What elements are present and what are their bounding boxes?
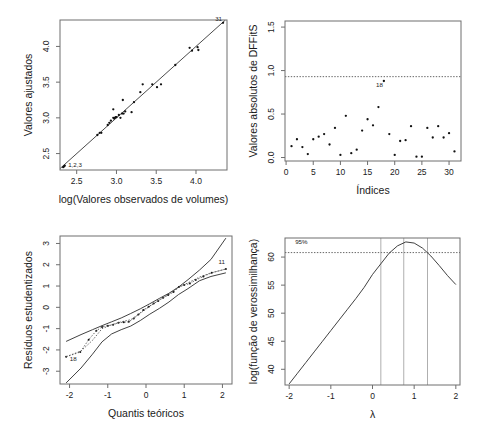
data-point-23 xyxy=(139,91,141,93)
x-tick-label-3: 15 xyxy=(363,167,373,177)
series-lower-envelope xyxy=(66,273,226,383)
y-tick-label-0: 0.0 xyxy=(266,151,276,163)
y-tick-label-0: 2.5 xyxy=(41,147,51,159)
data-point-26 xyxy=(432,136,434,138)
y-tick-label-5: 2 xyxy=(41,262,51,267)
y-tick-label-0: 40 xyxy=(266,364,276,374)
data-point-13 xyxy=(115,116,117,118)
figure-canvas: 2.53.03.54.02.53.03.54.0log(Valores obse… xyxy=(0,0,483,434)
y-tick-label-1: 0.5 xyxy=(266,108,276,120)
data-point-28 xyxy=(174,64,176,66)
data-point-7 xyxy=(108,122,110,124)
data-point-10 xyxy=(345,115,347,117)
data-point-5 xyxy=(100,132,102,134)
panel-boxcox-loglik: -2-10124045505560λlog(função de verossim… xyxy=(247,238,460,420)
plot-box xyxy=(285,238,460,385)
data-point-11 xyxy=(350,152,352,154)
y-tick-label-1: 3.0 xyxy=(41,112,51,124)
data-point-27 xyxy=(437,125,439,127)
data-point-29 xyxy=(448,132,450,134)
data-point-32 xyxy=(197,49,199,51)
data-point-26 xyxy=(156,86,158,88)
y-tick-label-1: -2 xyxy=(41,346,51,354)
data-point-16 xyxy=(119,117,121,119)
data-point-27 xyxy=(160,83,162,85)
y-tick-label-0: -3 xyxy=(41,367,51,375)
data-point-19 xyxy=(124,110,126,112)
y-tick-label-2: 1.0 xyxy=(266,64,276,76)
data-point-2 xyxy=(64,165,66,167)
x-tick-label-2: 0 xyxy=(370,391,375,401)
data-point-21 xyxy=(130,111,132,113)
x-tick-label-1: -1 xyxy=(104,390,112,400)
annotation-18: 18 xyxy=(70,355,77,362)
x-tick-label-0: -2 xyxy=(285,391,293,401)
data-point-25 xyxy=(151,83,153,85)
data-point-13 xyxy=(361,129,363,131)
y-tick-label-3: 1.5 xyxy=(266,21,276,33)
loglik-curve xyxy=(289,242,456,384)
x-tick-label-6: 30 xyxy=(444,167,454,177)
x-tick-label-2: 0 xyxy=(144,390,149,400)
panel-inner-boxcox-loglik xyxy=(285,238,460,385)
data-point-9 xyxy=(339,154,341,156)
x-tick-label-4: 2 xyxy=(220,390,225,400)
y-tick-label-2: 50 xyxy=(266,308,276,318)
annotation-18: 18 xyxy=(376,81,383,88)
data-point-24 xyxy=(142,83,144,85)
data-point-3 xyxy=(96,134,98,136)
data-point-20 xyxy=(122,99,124,101)
data-point-23 xyxy=(415,156,417,158)
data-point-15 xyxy=(372,124,374,126)
x-tick-label-3: 1 xyxy=(182,390,187,400)
panel-inner-fitted-vs-observed xyxy=(60,20,225,169)
series-median-envelope xyxy=(66,269,226,357)
x-tick-label-3: 4.0 xyxy=(190,176,202,186)
y-tick-label-2: -1 xyxy=(41,325,51,333)
data-point-22 xyxy=(410,125,412,127)
x-tick-label-0: 0 xyxy=(284,167,289,177)
data-point-14 xyxy=(112,108,114,110)
panel-inner-dffits-absolute xyxy=(285,77,461,158)
series-upper-envelope xyxy=(66,238,226,341)
panel-fitted-vs-observed: 2.53.03.54.02.53.03.54.0log(Valores obse… xyxy=(22,15,228,205)
x-tick-label-0: -2 xyxy=(66,390,74,400)
plot-box xyxy=(60,20,227,170)
series-observed-residuals xyxy=(66,269,226,357)
data-point-16 xyxy=(377,106,379,108)
annotation-11: 11 xyxy=(218,258,225,265)
x-axis-title: Índices xyxy=(356,184,389,196)
data-point-21 xyxy=(404,139,406,141)
data-point-8 xyxy=(334,127,336,129)
y-tick-label-3: 4.0 xyxy=(41,40,51,52)
data-point-18 xyxy=(388,133,390,135)
data-point-29 xyxy=(188,47,190,49)
data-point-0 xyxy=(290,145,292,147)
data-point-1 xyxy=(296,138,298,140)
x-axis-title: λ xyxy=(370,408,376,420)
y-tick-label-3: 55 xyxy=(266,280,276,290)
x-tick-label-4: 2 xyxy=(453,391,458,401)
y-axis-title: log(função de verossimilhança) xyxy=(247,239,259,384)
y-tick-label-6: 3 xyxy=(41,241,51,246)
y-axis-title: Valores ajustados xyxy=(22,54,34,137)
x-tick-label-1: 3.0 xyxy=(111,176,123,186)
panel-dffits-absolute: 0510152025300.00.51.01.5ÍndicesValores a… xyxy=(247,21,461,196)
data-point-7 xyxy=(328,143,330,145)
annotation-95%: 95% xyxy=(295,238,308,245)
y-tick-label-3: 0 xyxy=(41,305,51,310)
x-tick-label-5: 25 xyxy=(417,167,427,177)
y-axis-title: Resíduos estudentizados xyxy=(22,251,34,369)
data-point-17 xyxy=(383,80,385,82)
y-tick-label-1: 45 xyxy=(266,336,276,346)
data-point-18 xyxy=(122,112,124,114)
data-point-14 xyxy=(366,118,368,120)
data-point-5 xyxy=(318,136,320,138)
data-point-8 xyxy=(110,120,112,122)
x-tick-label-1: 5 xyxy=(311,167,316,177)
data-point-4 xyxy=(312,138,314,140)
x-tick-label-1: -1 xyxy=(327,391,335,401)
y-axis-title: Valores absolutos de DFFitS xyxy=(247,25,259,158)
data-point-24 xyxy=(421,156,423,158)
data-point-30 xyxy=(191,50,193,52)
